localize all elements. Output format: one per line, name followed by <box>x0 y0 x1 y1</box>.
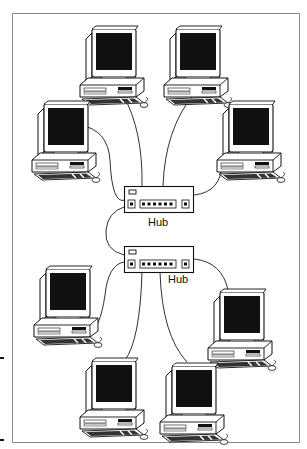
margin-mark <box>0 439 4 441</box>
hub-device-2 <box>125 247 194 273</box>
cable-bottom-right <box>160 272 187 362</box>
cable-bottom-left <box>125 272 142 360</box>
computer-mid-left <box>32 101 100 182</box>
cable-top-left <box>123 95 142 186</box>
cable-hub-uplink <box>106 207 124 255</box>
computer-mid-right <box>217 101 285 182</box>
network-diagram: Hub Hub <box>0 0 307 449</box>
margin-mark <box>0 357 4 359</box>
hub-label-2: Hub <box>168 273 188 285</box>
computer-top-left <box>80 26 148 107</box>
cable-top-right <box>163 95 193 186</box>
computer-top-right <box>164 26 232 107</box>
hub-device-1 <box>125 187 194 213</box>
computer-bottom-right <box>160 363 228 444</box>
hub-label-1: Hub <box>148 216 168 228</box>
diagram-frame <box>13 14 300 443</box>
computer-lower-left <box>34 266 102 347</box>
cable-lower-right <box>194 259 228 290</box>
computer-bottom-left <box>80 358 148 439</box>
computer-lower-right <box>208 289 276 370</box>
